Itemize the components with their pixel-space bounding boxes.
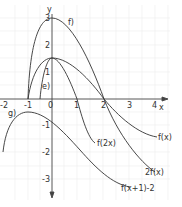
svg-text:4: 4 [152, 101, 157, 110]
label-2fx: 2f(x) [145, 168, 164, 177]
svg-text:0: 0 [48, 101, 53, 110]
label-f: f) [68, 18, 74, 27]
label-e: e) [42, 82, 50, 91]
label-fx1-2: f(x+1)-2 [121, 184, 155, 193]
svg-text:-2: -2 [0, 101, 8, 110]
y-axis-label: y [47, 5, 52, 14]
chart-area: x y -2 -1 0 1 2 3 4 3 2 1 -1 -2 -3 f) e)… [0, 0, 182, 207]
svg-text:-3: -3 [42, 175, 50, 184]
graph: x y -2 -1 0 1 2 3 4 3 2 1 -1 -2 -3 f) e)… [0, 0, 182, 207]
svg-text:-1: -1 [24, 101, 32, 110]
svg-text:3: 3 [127, 101, 132, 110]
svg-text:-2: -2 [42, 148, 50, 157]
label-f2x: f(2x) [97, 139, 116, 148]
label-fx: f(x) [158, 133, 172, 142]
curve-fx1-2 [3, 112, 130, 187]
svg-text:2: 2 [45, 41, 50, 50]
svg-text:-1: -1 [42, 121, 50, 130]
x-axis-label: x [159, 103, 164, 112]
svg-text:1: 1 [45, 68, 50, 77]
label-g: g) [8, 109, 16, 118]
